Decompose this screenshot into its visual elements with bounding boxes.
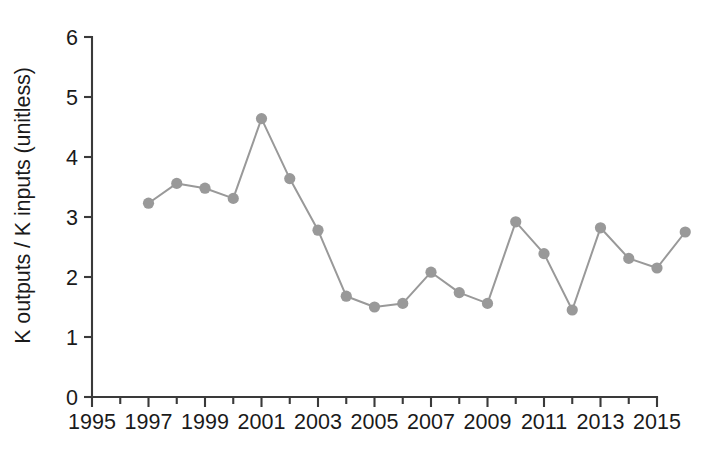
data-point-2016 xyxy=(680,226,691,237)
data-point-1997 xyxy=(143,198,154,209)
x-axis-tick-labels: 1995199719992001200320052007200920112013… xyxy=(68,410,681,434)
chart-figure: K outputs / K inputs (unitless) 0123456 … xyxy=(0,0,707,457)
data-point-2005 xyxy=(369,301,380,312)
line-chart-plot: 0123456 19951997199920012003200520072009… xyxy=(0,0,707,457)
series-line-k-ratio xyxy=(149,119,686,310)
data-point-2015 xyxy=(651,262,662,273)
x-tick-label-1999: 1999 xyxy=(181,410,229,434)
data-point-2009 xyxy=(482,298,493,309)
data-point-2001 xyxy=(256,113,267,124)
data-point-2008 xyxy=(454,287,465,298)
x-tick-label-2007: 2007 xyxy=(407,410,455,434)
data-point-2002 xyxy=(284,173,295,184)
x-tick-label-2015: 2015 xyxy=(633,410,681,434)
data-point-1998 xyxy=(171,178,182,189)
data-point-1999 xyxy=(199,183,210,194)
x-axis-ticks xyxy=(92,397,657,407)
x-tick-label-2005: 2005 xyxy=(351,410,399,434)
x-tick-label-2009: 2009 xyxy=(464,410,512,434)
x-tick-label-2001: 2001 xyxy=(238,410,286,434)
data-point-2013 xyxy=(595,222,606,233)
y-tick-label-2: 2 xyxy=(66,266,78,290)
x-tick-label-2003: 2003 xyxy=(294,410,342,434)
x-tick-label-2011: 2011 xyxy=(521,410,567,434)
y-tick-label-6: 6 xyxy=(66,26,78,50)
y-tick-label-1: 1 xyxy=(66,326,78,350)
series-markers-k-ratio xyxy=(143,113,691,316)
data-point-2011 xyxy=(538,248,549,259)
y-axis-tick-labels: 0123456 xyxy=(66,26,78,410)
y-tick-label-0: 0 xyxy=(66,386,78,410)
data-point-2007 xyxy=(425,267,436,278)
y-axis-ticks xyxy=(84,37,92,397)
data-point-2000 xyxy=(228,193,239,204)
data-point-2006 xyxy=(397,298,408,309)
x-tick-label-2013: 2013 xyxy=(577,410,625,434)
data-point-2010 xyxy=(510,216,521,227)
data-point-2012 xyxy=(567,304,578,315)
data-point-2014 xyxy=(623,253,634,264)
data-point-2003 xyxy=(312,225,323,236)
x-tick-label-1997: 1997 xyxy=(125,410,173,434)
y-tick-label-4: 4 xyxy=(66,146,78,170)
y-tick-label-5: 5 xyxy=(66,86,78,110)
data-point-2004 xyxy=(341,291,352,302)
y-tick-label-3: 3 xyxy=(66,206,78,230)
x-tick-label-1995: 1995 xyxy=(68,410,116,434)
